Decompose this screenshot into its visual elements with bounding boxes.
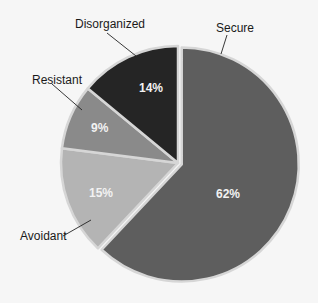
pie-chart: Secure Disorganized Resistant Avoidant 6…: [0, 0, 318, 303]
pie-slices: [61, 46, 299, 281]
leader-line-resistant: [52, 84, 82, 110]
pct-secure: 62%: [216, 187, 240, 201]
pct-avoidant: 15%: [89, 186, 113, 200]
label-avoidant: Avoidant: [20, 229, 67, 243]
pct-disorganized: 14%: [139, 81, 163, 95]
leader-line-secure: [221, 35, 227, 54]
label-resistant: Resistant: [32, 73, 83, 87]
pct-resistant: 9%: [91, 121, 109, 135]
leader-line-disorganized: [107, 33, 136, 56]
label-secure: Secure: [216, 21, 254, 35]
label-disorganized: Disorganized: [75, 17, 145, 31]
